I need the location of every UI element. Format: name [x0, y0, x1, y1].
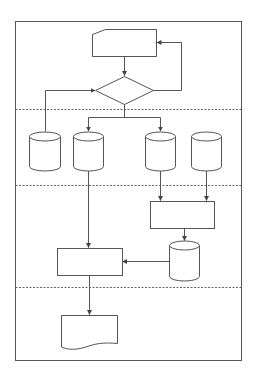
database-node-3[interactable] [146, 132, 176, 171]
edge-decision-feedback [154, 43, 182, 91]
decision-node[interactable] [96, 77, 154, 105]
database-node-1[interactable] [30, 132, 61, 171]
database-node-5[interactable] [170, 241, 200, 281]
process-node-2[interactable] [58, 249, 123, 276]
document-node[interactable] [62, 316, 118, 350]
swimlane-frame [16, 22, 242, 361]
database-node-2[interactable] [74, 132, 104, 171]
process-node-1[interactable] [151, 202, 215, 229]
edge-db1-to-decision [46, 91, 96, 132]
database-node-4[interactable] [192, 132, 222, 171]
flowchart-canvas [0, 0, 257, 378]
manual-input-node[interactable] [93, 30, 157, 57]
flowchart-svg [0, 0, 257, 378]
